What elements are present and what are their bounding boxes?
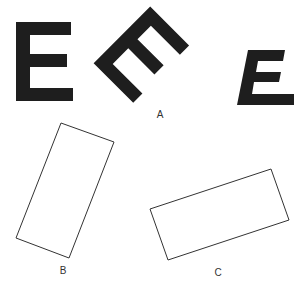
letter-e-upright — [16, 22, 73, 101]
rectangle-c — [150, 169, 289, 260]
letter-e-rotated — [94, 7, 190, 103]
label-c: C — [214, 267, 221, 278]
label-b: B — [60, 265, 67, 276]
figure-canvas — [0, 0, 306, 283]
rectangle-b — [16, 123, 114, 258]
letter-e-italic — [237, 50, 294, 105]
label-a: A — [157, 109, 164, 120]
